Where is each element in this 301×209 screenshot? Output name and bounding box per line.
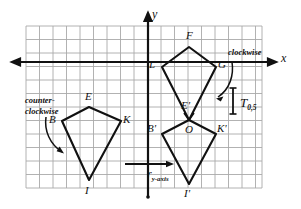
vertex-label-F: F bbox=[186, 30, 193, 41]
kite-BEKI bbox=[62, 107, 121, 180]
overlap-lens bbox=[184, 113, 194, 120]
x-axis-arrow-left bbox=[12, 59, 20, 66]
vertex-label-K-prime: K' bbox=[217, 123, 227, 134]
scale-factor-segment bbox=[230, 88, 237, 114]
y-axis-arrow-up bbox=[145, 13, 152, 21]
reflection-r-label: ry-axis bbox=[147, 168, 169, 180]
vertex-label-K: K bbox=[123, 114, 130, 125]
counterclockwise-label-line2: clockwise bbox=[25, 107, 59, 116]
vertex-label-L: L bbox=[149, 59, 155, 70]
y-axis-end-dot bbox=[146, 195, 150, 199]
x-axis-arrow-right bbox=[268, 59, 276, 66]
vertex-label-I-prime: I' bbox=[184, 188, 190, 199]
vertex-label-O: O bbox=[185, 124, 193, 135]
vertex-label-I: I bbox=[85, 185, 89, 196]
transform-T-label: T0,5 bbox=[240, 96, 257, 109]
vertex-label-E-prime: E' bbox=[181, 100, 190, 111]
transform-T-subscript: 0,5 bbox=[247, 103, 256, 112]
reflection-r-letter: r bbox=[147, 167, 152, 181]
counterclockwise-label-line1: counter- bbox=[25, 96, 55, 105]
x-axis-label: x bbox=[281, 52, 286, 64]
vertex-label-B-prime: B' bbox=[147, 123, 156, 134]
clockwise-label: clockwise bbox=[228, 48, 262, 57]
vertex-label-G: G bbox=[218, 59, 226, 70]
reflection-r-subscript: y-axis bbox=[152, 175, 169, 183]
y-axis-label: y bbox=[152, 8, 157, 20]
vertex-label-E: E bbox=[85, 91, 92, 102]
geometry-figure: y x B E K I L F G E' B' O K' I' counter-… bbox=[0, 0, 301, 209]
